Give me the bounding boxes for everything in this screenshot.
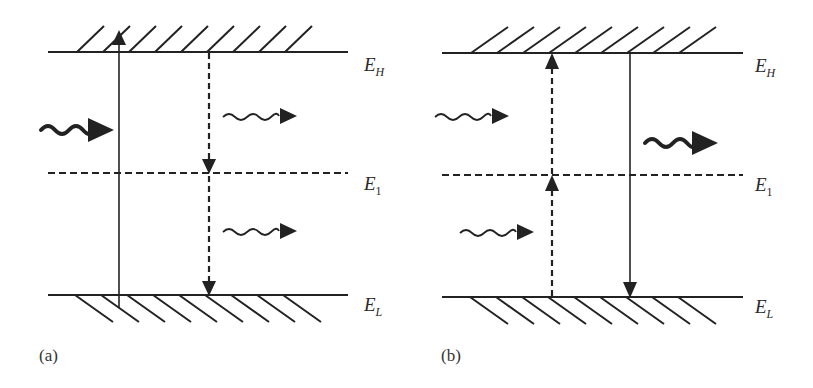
photon-thin-incoming-lower-icon	[460, 224, 534, 240]
hatch-below-el	[75, 295, 321, 322]
level-label-eh-b: EH	[755, 56, 775, 79]
panel-label-a: (a)	[39, 347, 58, 364]
relaxation-arrow-lower	[202, 176, 216, 296]
photon-bold-emitted-icon	[645, 131, 718, 155]
level-label-el-b: EL	[755, 297, 773, 320]
panel-b	[435, 27, 743, 324]
hatch-above-eh	[77, 26, 312, 52]
pump-arrow-lower	[545, 175, 559, 296]
panel-a	[41, 26, 348, 322]
hatch-above-eh	[471, 27, 716, 53]
pump-arrow-upper	[545, 53, 559, 174]
panel-label-b: (b)	[441, 347, 461, 364]
absorption-arrow	[112, 30, 126, 308]
relaxation-arrow-upper	[202, 53, 216, 174]
level-label-el-a: EL	[364, 295, 382, 318]
photon-thin-incoming-upper-icon	[435, 108, 509, 124]
level-label-e1-b: E1	[755, 175, 773, 198]
photon-thin-emitted-lower-icon	[223, 223, 297, 239]
photon-thin-emitted-upper-icon	[223, 108, 297, 124]
level-label-eh-a: EH	[364, 55, 384, 78]
level-label-e1-a: E1	[364, 174, 382, 197]
hatch-below-el	[470, 297, 716, 324]
photon-bold-incoming-icon	[41, 118, 114, 142]
energy-level-diagram	[0, 0, 813, 388]
